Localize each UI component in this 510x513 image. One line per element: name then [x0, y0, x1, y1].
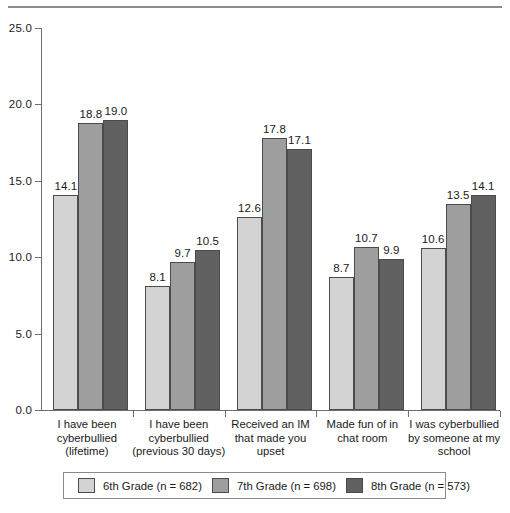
category-label-line: chat room — [312, 432, 412, 446]
bar-slot: 12.6 — [237, 28, 262, 410]
category-label-line: upset — [221, 445, 321, 459]
legend-color-swatch — [78, 478, 95, 493]
y-axis-tick — [35, 104, 41, 105]
legend-item[interactable]: 6th Grade (n = 682) — [78, 473, 202, 498]
category-label-line: cyberbullied — [37, 432, 137, 446]
category-label-line: I have been — [129, 418, 229, 432]
category-label-line: (previous 30 days) — [129, 445, 229, 459]
legend-item[interactable]: 8th Grade (n = 573) — [346, 473, 470, 498]
plot-area: 0.05.010.015.020.025.0 14.118.819.08.19.… — [41, 28, 500, 410]
x-axis-tick — [133, 411, 134, 417]
bar-slot: 9.7 — [170, 28, 195, 410]
bar[interactable] — [103, 120, 128, 410]
category-label-line: school — [404, 445, 504, 459]
bar[interactable] — [78, 123, 103, 410]
chart-legend: 6th Grade (n = 682)7th Grade (n = 698)8t… — [63, 472, 446, 499]
category-label: I have beencyberbullied(lifetime) — [37, 418, 137, 459]
bar-value-label: 12.6 — [238, 202, 261, 214]
y-axis-tick — [35, 181, 41, 182]
legend-item[interactable]: 7th Grade (n = 698) — [212, 473, 336, 498]
bar-group: 12.617.817.1 — [237, 28, 312, 410]
bar-slot: 10.7 — [354, 28, 379, 410]
x-axis-tick — [225, 411, 226, 417]
bar-slot: 10.6 — [421, 28, 446, 410]
bar[interactable] — [421, 248, 446, 410]
bar-slot: 8.1 — [145, 28, 170, 410]
bar-slot: 14.1 — [53, 28, 78, 410]
bar-slot: 13.5 — [446, 28, 471, 410]
y-axis-tick-label: 5.0 — [15, 328, 32, 340]
bar-slot: 10.5 — [195, 28, 220, 410]
bar-value-label: 10.5 — [196, 235, 219, 247]
y-axis-tick — [35, 28, 41, 29]
bar-slot: 14.1 — [471, 28, 496, 410]
bar[interactable] — [329, 277, 354, 410]
bar-value-label: 17.8 — [263, 123, 286, 135]
bar[interactable] — [471, 195, 496, 410]
y-axis-tick — [35, 257, 41, 258]
category-label-line: Made fun of in — [312, 418, 412, 432]
legend-label: 7th Grade (n = 698) — [237, 480, 336, 492]
x-axis-tick — [408, 411, 409, 417]
bar[interactable] — [237, 217, 262, 410]
top-divider-rule — [8, 6, 502, 8]
bar-value-label: 19.0 — [104, 105, 127, 117]
category-label-line: I was cyberbullied — [404, 418, 504, 432]
bar-value-label: 8.1 — [150, 271, 166, 283]
category-label-line: by someone at my — [404, 432, 504, 446]
bar-group: 10.613.514.1 — [421, 28, 496, 410]
bar-value-label: 9.9 — [383, 244, 399, 256]
bar-slot: 8.7 — [329, 28, 354, 410]
category-label-line: (lifetime) — [37, 445, 137, 459]
y-axis-tick — [35, 334, 41, 335]
bar-slot: 18.8 — [78, 28, 103, 410]
bar[interactable] — [379, 259, 404, 410]
category-label: Made fun of inchat room — [312, 418, 412, 445]
bar[interactable] — [262, 138, 287, 410]
legend-color-swatch — [346, 478, 363, 493]
bar[interactable] — [446, 204, 471, 410]
y-axis-tick-label: 0.0 — [15, 404, 32, 416]
bar-group: 8.19.710.5 — [145, 28, 220, 410]
bar-slot: 17.8 — [262, 28, 287, 410]
legend-label: 6th Grade (n = 682) — [103, 480, 202, 492]
x-axis-tick — [316, 411, 317, 417]
category-label-line: Received an IM — [221, 418, 321, 432]
bar-value-label: 10.7 — [355, 232, 378, 244]
category-label-line: cyberbullied — [129, 432, 229, 446]
bar-group: 14.118.819.0 — [53, 28, 128, 410]
bar[interactable] — [195, 250, 220, 410]
y-axis-tick — [35, 410, 41, 411]
bar[interactable] — [145, 286, 170, 410]
bar[interactable] — [287, 149, 312, 410]
bar-value-label: 8.7 — [333, 262, 349, 274]
x-axis-tick — [500, 411, 501, 417]
legend-color-swatch — [212, 478, 229, 493]
x-axis-line — [41, 410, 500, 411]
bar[interactable] — [354, 247, 379, 410]
bar-slot: 9.9 — [379, 28, 404, 410]
category-label: Received an IMthat made youupset — [221, 418, 321, 459]
bar-value-label: 9.7 — [175, 247, 191, 259]
bar-group: 8.710.79.9 — [329, 28, 404, 410]
category-label-line: I have been — [37, 418, 137, 432]
bar-value-label: 18.8 — [79, 108, 102, 120]
bar-value-label: 14.1 — [472, 180, 495, 192]
bar-value-label: 10.6 — [422, 233, 445, 245]
bar[interactable] — [53, 195, 78, 410]
bar-slot: 17.1 — [287, 28, 312, 410]
bar-value-label: 14.1 — [54, 180, 77, 192]
category-label: I have beencyberbullied(previous 30 days… — [129, 418, 229, 459]
y-axis-tick-label: 25.0 — [9, 22, 32, 34]
bar-chart-figure: 0.05.010.015.020.025.0 14.118.819.08.19.… — [0, 0, 510, 513]
y-axis-tick-label: 20.0 — [9, 98, 32, 110]
legend-label: 8th Grade (n = 573) — [371, 480, 470, 492]
y-axis-tick-label: 10.0 — [9, 251, 32, 263]
category-label-line: that made you — [221, 432, 321, 446]
y-axis-tick-label: 15.0 — [9, 175, 32, 187]
bar-value-label: 17.1 — [288, 134, 311, 146]
category-label: I was cyberbulliedby someone at myschool — [404, 418, 504, 459]
bar[interactable] — [170, 262, 195, 410]
bar-slot: 19.0 — [103, 28, 128, 410]
bar-value-label: 13.5 — [447, 189, 470, 201]
